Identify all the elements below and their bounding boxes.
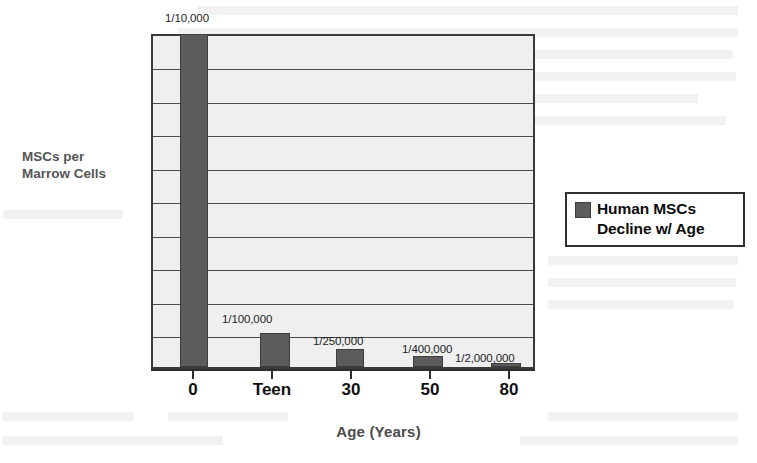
data-label-age-80: 1/2,000,000 (455, 352, 515, 364)
x-axis-tick (192, 371, 194, 379)
gridline (153, 136, 533, 137)
bar-age-50[interactable] (413, 356, 443, 367)
x-axis-label-50: 50 (421, 380, 440, 400)
legend-entry-label: Human MSCs Decline w/ Age (597, 199, 704, 239)
gridline (153, 304, 533, 305)
legend-entry-human-mscs: Human MSCs Decline w/ Age (575, 199, 735, 239)
gridline (153, 203, 533, 204)
gridline (153, 270, 533, 271)
x-axis-title: Age (Years) (0, 423, 757, 440)
data-label-age-50: 1/400,000 (402, 343, 452, 355)
x-axis-label-80: 80 (500, 380, 519, 400)
bar-chart: MSCs per Marrow Cells 1/10,000 1/100,000… (0, 0, 757, 463)
bar-age-30[interactable] (336, 349, 364, 367)
x-axis-tick (429, 371, 431, 379)
bar-age-0[interactable] (180, 34, 208, 367)
y-axis-title: MSCs per Marrow Cells (22, 148, 142, 182)
gridline (153, 237, 533, 238)
x-axis-label-30: 30 (342, 380, 361, 400)
legend-color-swatch-icon (575, 202, 591, 218)
y-axis-tick-column (153, 36, 181, 367)
data-label-age-0: 1/10,000 (165, 12, 209, 24)
y-axis-title-line-2: Marrow Cells (22, 165, 142, 182)
y-axis-title-line-1: MSCs per (22, 148, 142, 165)
x-axis-label-teen: Teen (253, 380, 291, 400)
x-axis-line (151, 369, 535, 371)
x-axis-tick (271, 371, 273, 379)
plot-area (151, 34, 535, 369)
gridline (153, 69, 533, 70)
bar-age-teen[interactable] (260, 333, 290, 367)
chart-legend: Human MSCs Decline w/ Age (565, 192, 745, 247)
x-axis-tick (508, 371, 510, 379)
data-label-age-30: 1/250,000 (313, 335, 363, 347)
x-axis-tick (350, 371, 352, 379)
gridline (153, 170, 533, 171)
data-label-age-teen: 1/100,000 (222, 313, 272, 325)
legend-label-line-1: Human MSCs (597, 200, 696, 217)
legend-label-line-2: Decline w/ Age (597, 219, 704, 239)
x-axis-label-0: 0 (188, 380, 197, 400)
gridline (153, 103, 533, 104)
